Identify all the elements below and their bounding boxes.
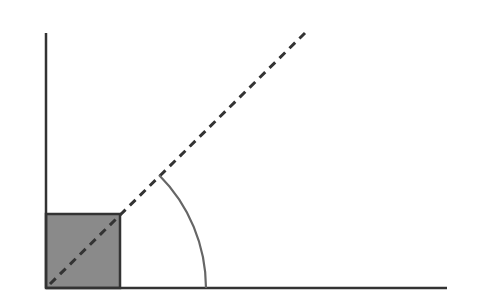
dashed-diagonal-ray	[50, 33, 305, 284]
angle-arc	[159, 175, 206, 288]
angle-diagram	[0, 0, 478, 302]
